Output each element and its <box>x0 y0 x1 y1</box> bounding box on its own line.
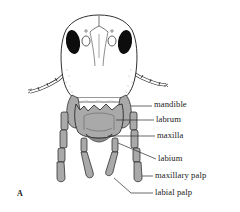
label-maxillary-palp: maxillary palp <box>155 171 206 180</box>
right-antennal-socket <box>108 36 116 46</box>
left-antennal-socket <box>82 36 90 46</box>
labrum-shape <box>75 104 124 138</box>
label-maxilla: maxilla <box>157 131 183 140</box>
panel-letter: A <box>17 189 23 198</box>
left-ocellus <box>85 30 87 32</box>
label-labrum: labrum <box>156 115 181 124</box>
diagram-drawing <box>0 0 240 212</box>
insect-head-diagram: mandible labrum maxilla labium maxillary… <box>0 0 240 212</box>
right-maxillary-palp <box>130 112 142 182</box>
label-labium: labium <box>158 154 182 163</box>
label-labial-palp: labial palp <box>155 188 192 197</box>
right-labial-palp <box>106 138 118 176</box>
label-mandible: mandible <box>154 100 187 109</box>
leader-labial-palp <box>114 178 131 193</box>
left-maxillary-palp <box>57 112 68 182</box>
right-ocellus <box>111 30 113 32</box>
clypeus <box>74 98 124 102</box>
left-labial-palp <box>81 138 93 178</box>
